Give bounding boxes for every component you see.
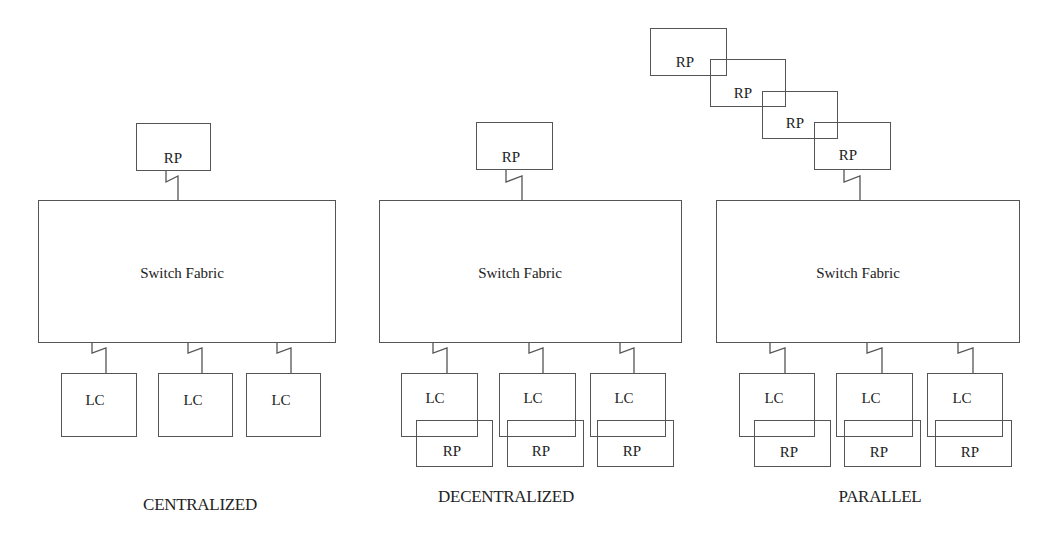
route-processor-label: RP <box>839 147 857 164</box>
centralized-caption: CENTRALIZED <box>143 495 257 515</box>
route-processor-label: RP <box>734 85 752 102</box>
switch-fabric-label: Switch Fabric <box>140 265 224 282</box>
decentralized-caption: DECENTRALIZED <box>438 487 574 507</box>
route-processor-label: RP <box>623 443 641 460</box>
line-card-label: LC <box>85 392 104 409</box>
line-card-label: LC <box>861 390 880 407</box>
line-card-label: LC <box>764 390 783 407</box>
line-card-label: LC <box>183 392 202 409</box>
route-processor-label: RP <box>870 444 888 461</box>
route-processor-label: RP <box>676 54 694 71</box>
route-processor-label: RP <box>780 444 798 461</box>
route-processor-label: RP <box>502 149 520 166</box>
switch-fabric-label: Switch Fabric <box>816 265 900 282</box>
route-processor-label: RP <box>786 115 804 132</box>
route-processor-label: RP <box>164 150 182 167</box>
route-processor-label: RP <box>443 443 461 460</box>
parallel-caption: PARALLEL <box>839 487 922 507</box>
line-card-label: LC <box>952 390 971 407</box>
route-processor-label: RP <box>532 443 550 460</box>
line-card-label: LC <box>425 390 444 407</box>
switch-fabric-label: Switch Fabric <box>478 265 562 282</box>
line-card-label: LC <box>614 390 633 407</box>
route-processor-label: RP <box>961 444 979 461</box>
line-card-label: LC <box>271 392 290 409</box>
line-card-label: LC <box>523 390 542 407</box>
